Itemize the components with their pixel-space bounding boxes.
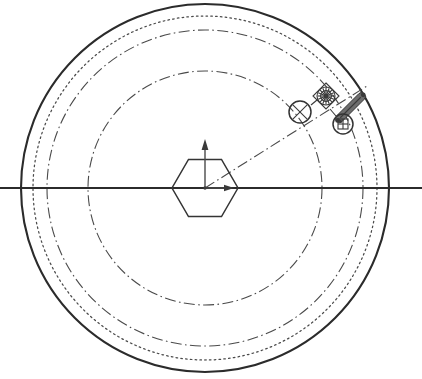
hub-center-point [203,186,206,189]
gear-hub-point [324,94,328,98]
technical-drawing-canvas: Rotary Drum Sectional Layout [0,0,422,379]
rod-end-upper [361,92,366,97]
drawing-svg-root [0,0,422,379]
drawing-background [0,0,422,379]
